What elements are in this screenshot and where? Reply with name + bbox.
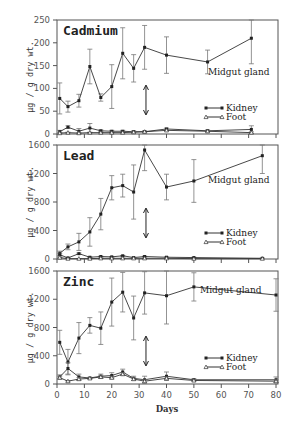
square-marker-icon: [88, 324, 91, 327]
panel-title: Cadmium: [63, 23, 118, 38]
square-marker-icon: [77, 240, 80, 243]
y-tick-label: 200: [34, 38, 50, 48]
figure: 050100150200250µg / g dry wt.CadmiumMidg…: [0, 0, 293, 433]
legend: KidneyFoot: [204, 103, 258, 122]
legend-foot: Foot: [226, 237, 247, 247]
square-marker-icon: [121, 52, 124, 55]
square-marker-icon: [132, 67, 135, 70]
square-marker-icon: [88, 65, 91, 68]
y-tick-label: 0: [45, 379, 50, 389]
square-marker-icon: [77, 99, 80, 102]
square-marker-icon: [88, 127, 91, 130]
square-marker-icon: [121, 184, 124, 187]
square-marker-icon: [99, 96, 102, 99]
square-marker-icon: [143, 46, 146, 49]
square-marker-icon: [143, 291, 146, 294]
square-marker-icon: [58, 341, 61, 344]
square-marker-icon: [66, 105, 69, 108]
midgut-gland-annotation: Midgut gland: [208, 67, 270, 77]
triangle-marker-icon: [77, 257, 81, 261]
y-tick-label: 50: [39, 106, 50, 116]
square-marker-icon: [192, 179, 195, 182]
y-tick-label: 250: [34, 15, 50, 25]
triangle-marker-icon: [249, 131, 253, 135]
legend-foot: Foot: [226, 362, 247, 372]
square-marker-icon: [132, 316, 135, 319]
square-marker-icon: [58, 97, 61, 100]
y-tick-label: 400: [34, 226, 50, 236]
midgut-gland-annotation: Midgut gland: [200, 285, 262, 295]
y-tick-label: 800: [34, 197, 50, 207]
square-marker-icon: [88, 230, 91, 233]
square-marker-icon: [110, 85, 113, 88]
panel-title: Zinc: [63, 274, 94, 289]
y-tick-label: 1600: [28, 140, 50, 150]
square-marker-icon: [66, 126, 69, 129]
y-axis-label: µg / g dry wt.: [25, 166, 35, 238]
triangle-marker-icon: [88, 131, 92, 135]
triangle-marker-icon: [66, 131, 70, 135]
square-marker-icon: [192, 285, 195, 288]
y-tick-label: 800: [34, 323, 50, 333]
x-tick-label: 20: [106, 390, 117, 400]
square-marker-icon: [275, 294, 278, 297]
square-marker-icon: [77, 252, 80, 255]
x-tick-label: 80: [271, 390, 282, 400]
y-axis-label: µg / g dry wt.: [25, 41, 35, 113]
square-marker-icon: [66, 367, 69, 370]
square-marker-icon: [206, 60, 209, 63]
square-marker-icon: [99, 213, 102, 216]
square-marker-icon: [165, 294, 168, 297]
square-marker-icon: [66, 245, 69, 248]
x-tick-label: 0: [54, 390, 59, 400]
x-tick-label: 30: [134, 390, 145, 400]
legend: KidneyFoot: [204, 228, 258, 247]
x-tick-label: 50: [188, 390, 199, 400]
panel-cadmium: 050100150200250µg / g dry wt.CadmiumMidg…: [25, 15, 278, 139]
square-marker-icon: [99, 327, 102, 330]
panel-lead: 040080012001600µg / g dry wt.LeadMidgut …: [25, 140, 278, 264]
square-marker-icon: [132, 191, 135, 194]
x-axis-label: Days: [156, 404, 179, 414]
legend: KidneyFoot: [204, 353, 258, 372]
square-marker-icon: [261, 154, 264, 157]
x-tick-label: 60: [216, 390, 227, 400]
y-tick-label: 150: [34, 61, 50, 71]
y-tick-label: 0: [45, 254, 50, 264]
square-marker-icon: [110, 186, 113, 189]
y-tick-label: 400: [34, 351, 50, 361]
triangle-marker-icon: [66, 379, 70, 383]
legend-foot: Foot: [226, 112, 247, 122]
panel-title: Lead: [63, 148, 94, 163]
square-marker-icon: [77, 337, 80, 340]
square-marker-icon: [143, 148, 146, 151]
x-tick-label: 10: [79, 390, 90, 400]
square-marker-icon: [165, 186, 168, 189]
square-marker-icon: [250, 37, 253, 40]
y-tick-label: 100: [34, 83, 50, 93]
y-tick-label: 1600: [28, 266, 50, 276]
y-tick-label: 0: [45, 129, 50, 139]
midgut-gland-annotation: Midgut gland: [208, 175, 270, 185]
x-tick-label: 70: [243, 390, 254, 400]
y-axis-label: µg / g dry wt.: [25, 292, 35, 364]
square-marker-icon: [165, 54, 168, 57]
panel-zinc: 040080012001600µg / g dry wt.ZincMidgut …: [25, 266, 279, 389]
square-marker-icon: [110, 301, 113, 304]
x-tick-label: 40: [161, 390, 172, 400]
square-marker-icon: [121, 291, 124, 294]
